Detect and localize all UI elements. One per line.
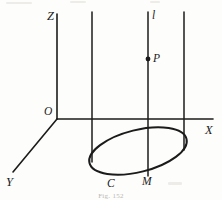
line-l-label: l [152, 10, 155, 22]
y-axis-label: Y [6, 176, 13, 189]
point-p-dot [146, 57, 151, 62]
diagram-canvas [0, 0, 222, 200]
figure-container: Z X Y O l P M C Fig. 152 [0, 0, 222, 200]
curve-c-ellipse [84, 119, 191, 184]
axes-group [13, 14, 213, 172]
vertical-generatrix-group [92, 12, 184, 176]
z-axis-label: Z [47, 10, 54, 23]
figure-caption: Fig. 152 [0, 192, 222, 200]
curve-c-label: C [107, 178, 115, 190]
x-axis-label: X [205, 124, 213, 137]
point-m-label: M [142, 176, 152, 188]
point-p-label: P [153, 53, 160, 65]
origin-label: O [44, 106, 52, 118]
y-axis-line [13, 119, 57, 172]
